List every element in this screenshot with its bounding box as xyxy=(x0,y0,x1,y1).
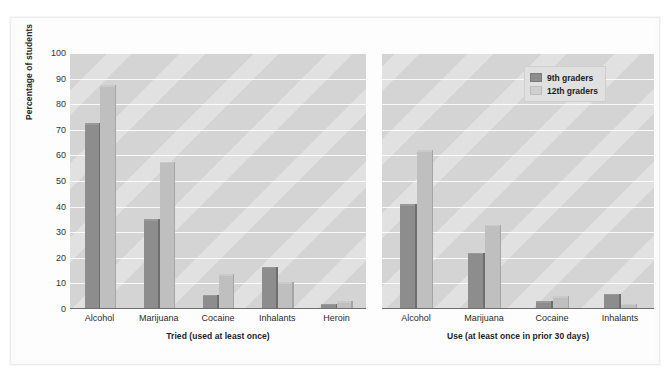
y-axis-tick-label: 30 xyxy=(42,227,66,237)
chart-panel-tried: AlcoholMarijuanaCocaineInhalantsHeroin T… xyxy=(70,53,366,309)
bar-side xyxy=(292,282,294,309)
x-axis-tick-label: Cocaine xyxy=(201,313,234,323)
y-axis-tick-label: 10 xyxy=(42,278,66,288)
legend-swatch-icon xyxy=(530,73,542,82)
x-axis-tick-label: Cocaine xyxy=(535,313,568,323)
bar-alcohol-12th xyxy=(100,85,114,309)
x-axis-tick-label: Alcohol xyxy=(85,313,115,323)
panel-title-use: Use (at least once in prior 30 days) xyxy=(382,331,654,341)
x-axis-tick-label: Heroin xyxy=(323,313,350,323)
bar-face xyxy=(144,219,158,309)
bar-cocaine-12th xyxy=(219,274,233,309)
bar-top xyxy=(337,301,351,303)
bar-face xyxy=(100,85,114,309)
y-axis-tick-label: 80 xyxy=(42,99,66,109)
bar-marijuana-9th xyxy=(144,219,158,309)
plot-area-tried xyxy=(70,53,366,309)
legend-item-label: 12th graders xyxy=(547,86,598,96)
bar-top xyxy=(536,301,551,303)
bar-top xyxy=(417,150,432,152)
bar-top xyxy=(278,282,292,284)
bar-top xyxy=(468,253,483,255)
bar-side xyxy=(500,225,502,309)
y-axis-tick-label: 60 xyxy=(42,150,66,160)
bar-top xyxy=(144,219,158,221)
x-axis-line-tried xyxy=(70,308,366,310)
x-axis-tick-label: Marijuana xyxy=(464,313,504,323)
bar-face xyxy=(468,253,483,309)
y-axis-tick-label: 40 xyxy=(42,202,66,212)
bar-top xyxy=(160,162,174,164)
legend: 9th graders 12th graders xyxy=(524,66,606,102)
y-axis-tick-label: 0 xyxy=(42,304,66,314)
bar-side xyxy=(115,85,117,309)
x-axis-line-use xyxy=(382,308,654,310)
x-axis-tick-labels-tried: AlcoholMarijuanaCocaineInhalantsHeroin xyxy=(70,313,366,327)
bar-alcohol-9th xyxy=(400,204,415,309)
bar-top xyxy=(262,267,276,269)
y-axis-tick-label: 100 xyxy=(42,48,66,58)
bars-tried xyxy=(70,53,366,309)
bar-top xyxy=(621,304,636,306)
bars-use xyxy=(382,53,654,309)
x-axis-tick-label: Alcohol xyxy=(401,313,431,323)
bar-marijuana-9th xyxy=(468,253,483,309)
bar-top xyxy=(100,85,114,87)
bar-face xyxy=(219,274,233,309)
bar-face xyxy=(485,225,500,309)
plot-area-use xyxy=(382,53,654,309)
bar-side xyxy=(233,274,235,309)
bar-top xyxy=(321,304,335,306)
bar-top xyxy=(203,295,217,297)
y-axis-title: Percentage of students xyxy=(24,0,38,120)
y-axis-tick-label: 90 xyxy=(42,74,66,84)
bar-top xyxy=(85,123,99,125)
y-axis-tick-labels: 0102030405060708090100 xyxy=(38,0,66,383)
bar-alcohol-9th xyxy=(85,123,99,309)
bar-face xyxy=(262,267,276,309)
bar-face xyxy=(417,150,432,309)
bar-face xyxy=(160,162,174,309)
figure-root: Percentage of students 01020304050607080… xyxy=(0,0,672,383)
bar-inhalants-12th xyxy=(278,282,292,309)
bar-top xyxy=(485,225,500,227)
y-axis-tick-label: 70 xyxy=(42,125,66,135)
legend-swatch-icon xyxy=(530,86,542,95)
chart-panel-use: AlcoholMarijuanaCocaineInhalants Use (at… xyxy=(382,53,654,309)
bar-inhalants-9th xyxy=(262,267,276,309)
bar-top xyxy=(604,294,619,296)
bar-top xyxy=(219,274,233,276)
y-axis-tick-label: 50 xyxy=(42,176,66,186)
y-axis-tick-label: 20 xyxy=(42,253,66,263)
bar-marijuana-12th xyxy=(160,162,174,309)
bar-marijuana-12th xyxy=(485,225,500,309)
legend-item-label: 9th graders xyxy=(547,73,593,83)
x-axis-tick-label: Inhalants xyxy=(259,313,296,323)
bar-side xyxy=(174,162,176,309)
bar-side xyxy=(432,150,434,309)
bar-top xyxy=(553,296,568,298)
legend-item-9th: 9th graders xyxy=(530,71,598,84)
legend-item-12th: 12th graders xyxy=(530,84,598,97)
bar-face xyxy=(85,123,99,309)
x-axis-tick-label: Inhalants xyxy=(602,313,639,323)
x-axis-tick-labels-use: AlcoholMarijuanaCocaineInhalants xyxy=(382,313,654,327)
bar-face xyxy=(400,204,415,309)
x-axis-tick-label: Marijuana xyxy=(139,313,179,323)
bar-top xyxy=(400,204,415,206)
bar-face xyxy=(278,282,292,309)
bar-alcohol-12th xyxy=(417,150,432,309)
panel-title-tried: Tried (used at least once) xyxy=(70,331,366,341)
